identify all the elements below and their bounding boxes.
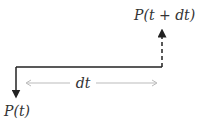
start-point-label: P(t) bbox=[3, 103, 30, 119]
diagram-canvas: dt P(t) P(t + dt) bbox=[0, 0, 204, 124]
interval-label: dt bbox=[76, 75, 91, 91]
interval-dimension bbox=[26, 80, 157, 86]
end-point-label: P(t + dt) bbox=[133, 7, 195, 23]
